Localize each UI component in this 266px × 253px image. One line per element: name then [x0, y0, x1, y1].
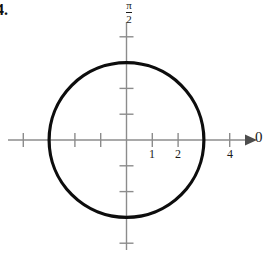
- pi-over-two-fraction: π 2: [124, 0, 134, 25]
- polar-plot-canvas: [0, 0, 266, 253]
- x-tick-label-1: 1: [145, 148, 159, 160]
- fraction-denominator: 2: [124, 14, 134, 25]
- x-tick-label-2: 2: [171, 148, 185, 160]
- polar-figure: 4.: [0, 0, 266, 253]
- vertical-axis-label: π 2: [118, 0, 140, 25]
- fraction-numerator: π: [124, 0, 134, 11]
- x-tick-label-4: 4: [223, 148, 237, 160]
- horizontal-axis-label: 0: [255, 130, 263, 145]
